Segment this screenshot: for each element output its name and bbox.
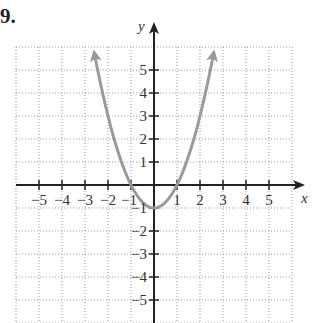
y-tick-label: −4 xyxy=(131,269,147,285)
parabola-graph: −5−4−3−2−112345−5−4−3−2−112345xy xyxy=(0,0,313,323)
x-tick-label: 1 xyxy=(173,192,181,208)
y-axis-label: y xyxy=(136,18,145,34)
x-tick-label: 2 xyxy=(196,192,204,208)
x-tick-label: −3 xyxy=(77,192,93,208)
y-tick-label: 3 xyxy=(140,108,148,124)
axes xyxy=(16,24,303,323)
x-tick-label: 3 xyxy=(219,192,227,208)
y-tick-label: 2 xyxy=(140,131,148,147)
x-tick-label: −5 xyxy=(31,192,47,208)
y-tick-label: −3 xyxy=(131,246,147,262)
tick-labels: −5−4−3−2−112345−5−4−3−2−112345xy xyxy=(31,18,308,308)
x-tick-label: −2 xyxy=(100,192,116,208)
x-axis-label: x xyxy=(300,190,308,206)
y-tick-label: −1 xyxy=(131,200,147,216)
x-tick-label: 4 xyxy=(242,192,250,208)
y-tick-label: −5 xyxy=(131,292,147,308)
y-tick-label: 5 xyxy=(140,62,148,78)
y-tick-label: 4 xyxy=(140,85,148,101)
y-tick-label: −2 xyxy=(131,223,147,239)
y-tick-label: 1 xyxy=(140,154,148,170)
x-tick-label: 5 xyxy=(265,192,273,208)
x-tick-label: −4 xyxy=(54,192,70,208)
